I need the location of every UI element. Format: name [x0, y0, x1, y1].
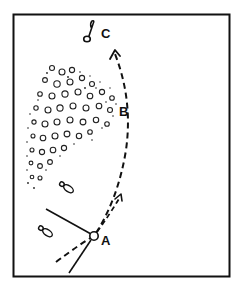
short-flight-path	[97, 197, 120, 232]
flag-icon	[84, 21, 94, 42]
curved-flight-path	[56, 54, 128, 262]
frame-border	[14, 15, 230, 277]
footprint-icon	[37, 224, 53, 238]
shrubbery-icon	[26, 66, 117, 189]
label-b: B	[119, 104, 128, 119]
footprint-icon	[58, 180, 74, 194]
label-a: A	[101, 233, 111, 248]
ball-position-icon	[90, 232, 98, 240]
aim-line	[46, 209, 91, 234]
label-c: C	[101, 26, 111, 41]
aim-line	[69, 240, 91, 273]
diagram-canvas: C A B	[0, 0, 243, 289]
